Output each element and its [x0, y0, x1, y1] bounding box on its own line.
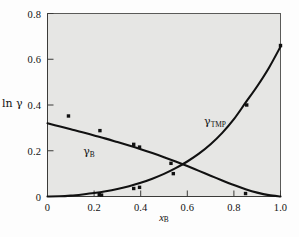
x-axis-title: xB: [159, 212, 169, 225]
data-point-gamma-B-3: [138, 145, 141, 148]
data-point-gamma-B-5: [172, 172, 175, 175]
x-tick-label-2: 0.4: [134, 202, 147, 213]
data-point-gamma-TMP-4: [245, 103, 248, 106]
y-tick-label-1: 0.2: [8, 145, 41, 156]
y-tick-label-4: 0.8: [8, 8, 41, 19]
data-point-gamma-B-1: [98, 129, 101, 132]
curve-gamma-B: [48, 123, 281, 196]
figure-container: 00.20.40.60.8 00.20.40.60.81.0 ln γ xB γ…: [0, 0, 299, 237]
data-point-gamma-B-4: [169, 162, 172, 165]
curve-label-gamma-tmp: γTMP: [204, 115, 226, 129]
data-point-gamma-TMP-1: [100, 193, 103, 196]
data-point-gamma-TMP-5: [279, 44, 282, 47]
data-point-gamma-TMP-3: [138, 186, 141, 189]
curve-label-gamma-b: γB: [83, 145, 95, 159]
x-tick-label-0: 0: [45, 202, 50, 213]
curves-group: [48, 47, 281, 197]
y-tick-label-0: 0: [8, 191, 41, 202]
x-tick-label-3: 0.6: [181, 202, 194, 213]
data-point-gamma-B-0: [67, 114, 70, 117]
data-point-gamma-B-6: [244, 192, 247, 195]
x-tick-label-4: 0.8: [227, 202, 240, 213]
curve-gamma-TMP: [48, 47, 281, 197]
x-tick-label-5: 1.0: [274, 202, 287, 213]
y-axis-title: ln γ: [2, 97, 23, 110]
data-point-gamma-B-2: [132, 143, 135, 146]
y-tick-label-3: 0.6: [8, 54, 41, 65]
data-markers-group: [67, 44, 282, 197]
data-point-gamma-TMP-2: [132, 187, 135, 190]
x-tick-label-1: 0.2: [87, 202, 100, 213]
